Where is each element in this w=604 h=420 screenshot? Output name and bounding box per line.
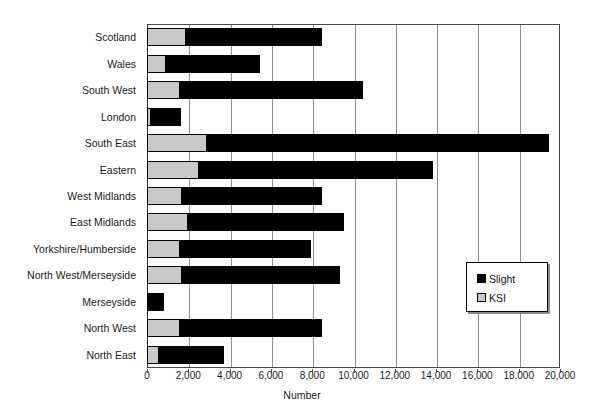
x-axis-tickmark: [230, 369, 231, 373]
bar-segment-ksi: [147, 134, 207, 152]
bar-segment-slight: [206, 134, 549, 152]
bar-chart: ScotlandWalesSouth WestLondonSouth EastE…: [0, 0, 604, 420]
bar-row: [147, 161, 433, 179]
x-axis-tickmark: [312, 369, 313, 373]
bar-segment-ksi: [147, 266, 182, 284]
chart-legend: Slight KSI: [466, 262, 548, 312]
bar-segment-slight: [181, 266, 340, 284]
category-label: Merseyside: [0, 296, 136, 308]
bar-row: [147, 266, 340, 284]
black-square-icon: [477, 274, 486, 283]
bar-segment-ksi: [147, 28, 186, 46]
bar-segment-slight: [165, 55, 260, 73]
bar-segment-slight: [150, 108, 181, 126]
category-label: North East: [0, 349, 136, 361]
bar-row: [147, 187, 322, 205]
bar-segment-slight: [181, 187, 321, 205]
legend-item-ksi: KSI: [477, 288, 547, 307]
bar-row: [147, 346, 224, 364]
category-label: Eastern: [0, 164, 136, 176]
x-axis-tickmark: [147, 369, 148, 373]
category-label: West Midlands: [0, 190, 136, 202]
bar-segment-slight: [185, 28, 321, 46]
bar-segment-slight: [187, 213, 344, 231]
x-axis-tickmark: [436, 369, 437, 373]
category-label: South East: [0, 137, 136, 149]
legend-label-slight: Slight: [489, 273, 515, 285]
x-axis-tickmark: [477, 369, 478, 373]
bar-segment-ksi: [147, 81, 180, 99]
x-axis-tickmark: [354, 369, 355, 373]
bar-segment-slight: [198, 161, 433, 179]
x-axis-tickmark: [188, 369, 189, 373]
bar-segment-ksi: [147, 55, 166, 73]
category-axis: ScotlandWalesSouth WestLondonSouth EastE…: [0, 24, 142, 368]
bar-row: [147, 108, 181, 126]
legend-item-slight: Slight: [477, 269, 547, 288]
category-label: North West/Merseyside: [0, 269, 136, 281]
bar-segment-slight: [179, 319, 321, 337]
bar-row: [147, 55, 260, 73]
category-label: Scotland: [0, 31, 136, 43]
bars-layer: [147, 24, 560, 368]
category-label: South West: [0, 84, 136, 96]
bar-segment-ksi: [147, 319, 180, 337]
bar-row: [147, 240, 311, 258]
x-axis-tickmark: [271, 369, 272, 373]
category-label: London: [0, 111, 136, 123]
bar-row: [147, 293, 164, 311]
bar-segment-slight: [158, 346, 224, 364]
x-axis-tickmark: [560, 369, 561, 373]
legend-label-ksi: KSI: [489, 292, 506, 304]
bar-row: [147, 134, 549, 152]
x-axis-tickmark: [395, 369, 396, 373]
bar-segment-slight: [179, 81, 363, 99]
bar-row: [147, 319, 322, 337]
category-label: Wales: [0, 58, 136, 70]
x-axis-tick-labels: 02,0004,0006,0008,00010,00012,00014,0001…: [0, 369, 604, 385]
gray-square-icon: [477, 293, 486, 302]
category-label: North West: [0, 322, 136, 334]
bar-segment-slight: [179, 240, 311, 258]
category-label: Yorkshire/Humberside: [0, 243, 136, 255]
bar-segment-ksi: [147, 213, 188, 231]
bar-segment-ksi: [147, 161, 199, 179]
bar-segment-ksi: [147, 187, 182, 205]
bar-row: [147, 28, 322, 46]
x-axis-title: Number: [0, 389, 604, 401]
bar-row: [147, 81, 363, 99]
bar-segment-slight: [147, 293, 164, 311]
bar-row: [147, 213, 344, 231]
bar-segment-ksi: [147, 240, 180, 258]
category-label: East Midlands: [0, 216, 136, 228]
x-axis-tickmark: [519, 369, 520, 373]
